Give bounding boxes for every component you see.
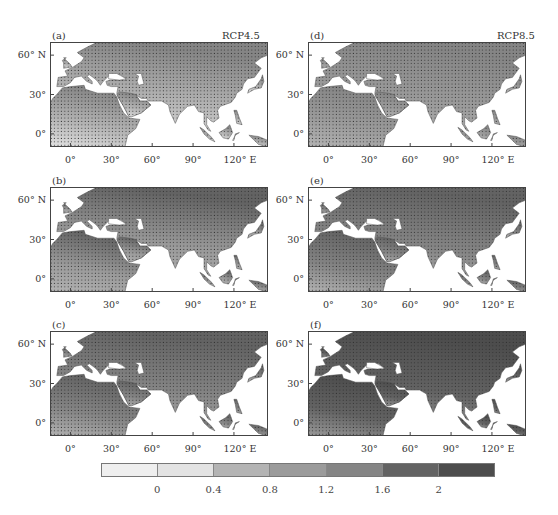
panel-label-b: (b)	[52, 175, 66, 186]
colorbar-tick-label: 0.8	[262, 484, 278, 495]
map-panel-c	[50, 331, 268, 436]
y-tick-label: 0°	[274, 273, 304, 284]
x-tick-label: 0°	[65, 299, 76, 310]
x-tick-label: 90°	[443, 299, 460, 310]
scenario-title-left: RCP4.5	[222, 30, 260, 41]
panel-label-f: (f)	[310, 319, 322, 330]
x-tick-label: 120° E	[224, 154, 257, 165]
x-tick-label: 90°	[443, 154, 460, 165]
x-tick-label: 60°	[144, 443, 161, 454]
colorbar-bin	[270, 464, 326, 476]
colorbar-bin	[102, 464, 158, 476]
map-svg-b	[50, 187, 268, 292]
map-svg-c	[50, 331, 268, 436]
x-tick-label: 120° E	[482, 443, 515, 454]
scenario-title-right: RCP8.5	[497, 30, 535, 41]
y-tick-label: 30°	[274, 234, 304, 245]
x-tick-label: 120° E	[224, 443, 257, 454]
panel-label-c: (c)	[52, 319, 65, 330]
y-tick-label: 0°	[16, 417, 46, 428]
panel-label-d: (d)	[310, 30, 324, 41]
x-tick-label: 90°	[185, 443, 202, 454]
colorbar-bin	[158, 464, 214, 476]
x-tick-label: 0°	[323, 443, 334, 454]
x-tick-label: 30°	[361, 154, 378, 165]
y-tick-label: 30°	[16, 89, 46, 100]
map-svg-f	[308, 331, 526, 436]
colorbar-bin	[327, 464, 383, 476]
y-tick-label: 60° N	[16, 49, 46, 60]
x-tick-label: 60°	[402, 443, 419, 454]
y-tick-label: 60° N	[274, 49, 304, 60]
x-tick-label: 60°	[402, 154, 419, 165]
x-tick-label: 90°	[443, 443, 460, 454]
colorbar-tick-label: 1.6	[374, 484, 390, 495]
x-tick-label: 120° E	[224, 299, 257, 310]
y-tick-label: 30°	[274, 89, 304, 100]
colorbar-bin	[383, 464, 439, 476]
y-tick-label: 60° N	[274, 194, 304, 205]
colorbar-tick-label: 0	[154, 484, 160, 495]
x-tick-label: 120° E	[482, 154, 515, 165]
x-tick-label: 0°	[323, 299, 334, 310]
x-tick-label: 30°	[361, 299, 378, 310]
colorbar-bin	[214, 464, 270, 476]
y-tick-label: 30°	[16, 234, 46, 245]
x-tick-label: 90°	[185, 154, 202, 165]
x-tick-label: 90°	[185, 299, 202, 310]
colorbar-tick-label: 0.4	[206, 484, 222, 495]
map-svg-d	[308, 42, 526, 147]
map-panel-a	[50, 42, 268, 147]
x-tick-label: 30°	[361, 443, 378, 454]
panel-label-a: (a)	[52, 30, 66, 41]
y-tick-label: 0°	[274, 128, 304, 139]
y-tick-label: 0°	[16, 273, 46, 284]
y-tick-label: 60° N	[16, 338, 46, 349]
y-tick-label: 0°	[16, 128, 46, 139]
x-tick-label: 0°	[65, 443, 76, 454]
x-tick-label: 0°	[323, 154, 334, 165]
colorbar-tick-label: 2	[436, 484, 442, 495]
map-panel-f	[308, 331, 526, 436]
y-tick-label: 0°	[274, 417, 304, 428]
y-tick-label: 60° N	[16, 194, 46, 205]
x-tick-label: 60°	[144, 154, 161, 165]
map-panel-d	[308, 42, 526, 147]
panel-label-e: (e)	[310, 175, 324, 186]
x-tick-label: 30°	[103, 443, 120, 454]
x-tick-label: 30°	[103, 154, 120, 165]
map-panel-e	[308, 187, 526, 292]
y-tick-label: 60° N	[274, 338, 304, 349]
y-tick-label: 30°	[274, 378, 304, 389]
colorbar-bin	[439, 464, 494, 476]
map-panel-b	[50, 187, 268, 292]
y-tick-label: 30°	[16, 378, 46, 389]
colorbar-tick-label: 1.2	[318, 484, 334, 495]
map-svg-e	[308, 187, 526, 292]
x-tick-label: 60°	[144, 299, 161, 310]
x-tick-label: 60°	[402, 299, 419, 310]
x-tick-label: 120° E	[482, 299, 515, 310]
x-tick-label: 30°	[103, 299, 120, 310]
map-svg-a	[50, 42, 268, 147]
x-tick-label: 0°	[65, 154, 76, 165]
colorbar	[101, 463, 495, 477]
